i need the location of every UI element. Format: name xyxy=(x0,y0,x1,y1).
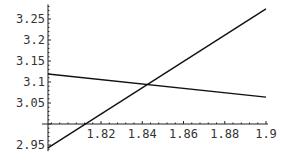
line-chart: 1.821.841.861.881.92.953.053.13.153.23.2… xyxy=(0,0,284,159)
y-tick-label: 3.2 xyxy=(23,33,45,47)
x-tick-label: 1.88 xyxy=(210,127,239,141)
y-tick-label: 2.95 xyxy=(16,138,45,152)
y-tick-label: 3.15 xyxy=(16,54,45,68)
y-tick-label: 3.1 xyxy=(23,75,45,89)
x-tick-label: 1.86 xyxy=(169,127,198,141)
y-tick-label: 3.05 xyxy=(16,96,45,110)
tick-labels: 1.821.841.861.881.92.953.053.13.153.23.2… xyxy=(16,12,277,152)
x-tick-label: 1.9 xyxy=(255,127,277,141)
y-tick-label: 3.25 xyxy=(16,12,45,26)
x-tick-label: 1.82 xyxy=(87,127,116,141)
series-decreasing-line xyxy=(48,74,266,97)
x-tick-label: 1.84 xyxy=(128,127,157,141)
